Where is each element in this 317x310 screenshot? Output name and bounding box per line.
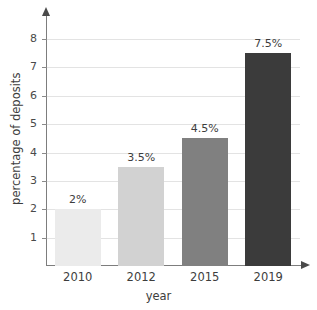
y-axis-tick-mark <box>42 39 47 40</box>
y-axis-arrow-icon <box>42 7 50 16</box>
y-axis-tick-label: 5 <box>30 118 37 129</box>
y-axis-tick-label: 7 <box>30 61 37 72</box>
y-axis-title: percentage of deposits <box>11 59 23 219</box>
x-axis-arrow-icon <box>301 261 310 269</box>
y-axis-tick-label: 3 <box>30 175 37 186</box>
x-axis-tick-label: 2019 <box>238 272 298 284</box>
x-axis-tick-label: 2012 <box>111 272 171 284</box>
y-axis-tick-mark <box>42 67 47 68</box>
bar <box>118 167 164 266</box>
y-axis-tick-mark <box>42 181 47 182</box>
x-axis-tick-label: 2010 <box>48 272 108 284</box>
y-axis-tick-label: 1 <box>30 232 37 243</box>
bar <box>55 209 101 266</box>
x-axis-tick-label: 2015 <box>175 272 235 284</box>
bar-value-label: 7.5% <box>238 38 298 49</box>
y-axis-tick-label: 4 <box>30 147 37 158</box>
x-axis-title: year <box>0 291 317 303</box>
y-axis-tick-mark <box>42 96 47 97</box>
y-axis-tick-label: 6 <box>30 90 37 101</box>
y-axis-tick-mark <box>42 153 47 154</box>
y-axis-tick-mark <box>42 124 47 125</box>
bar-value-label: 3.5% <box>111 152 171 163</box>
bar <box>182 138 228 266</box>
y-axis-tick-label: 2 <box>30 203 37 214</box>
bar <box>245 53 291 266</box>
y-axis-tick-mark <box>42 238 47 239</box>
y-axis-tick-mark <box>42 209 47 210</box>
plot-area <box>46 22 300 266</box>
y-axis-tick-label: 8 <box>30 33 37 44</box>
bar-chart: percentage of deposits year 123456782%20… <box>0 0 317 310</box>
bar-value-label: 2% <box>48 194 108 205</box>
bar-value-label: 4.5% <box>175 123 235 134</box>
